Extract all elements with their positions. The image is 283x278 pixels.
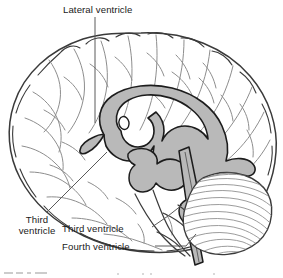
label-lateral-ventricle: Lateral ventricle [63, 4, 132, 15]
caption-cropped-glyphs [4, 272, 215, 275]
anatomical-illustration [0, 0, 283, 278]
label-third-ventricle-left-line1: Third [6, 214, 68, 225]
brain-ventricle-diagram: Lateral ventricle Third ventricle Third … [0, 0, 283, 278]
label-fourth-ventricle: Fourth ventricle [62, 241, 130, 252]
label-third-ventricle-left-line2: ventricle [6, 225, 68, 236]
label-third-ventricle-left: Third ventricle [6, 214, 68, 236]
label-third-ventricle: Third ventricle [62, 223, 124, 234]
